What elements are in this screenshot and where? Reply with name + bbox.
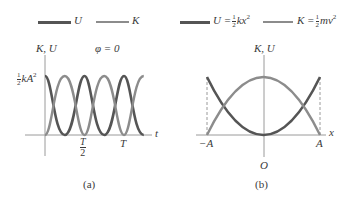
axes-b (196, 55, 326, 157)
plots (0, 0, 362, 200)
